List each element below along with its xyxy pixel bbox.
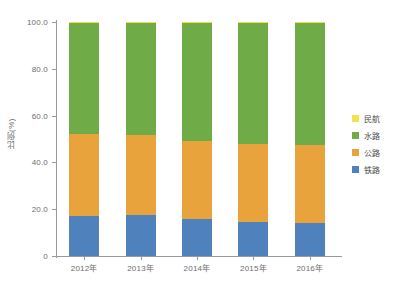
x-tick-label: 2012年: [56, 262, 112, 273]
legend-swatch-icon: [352, 166, 359, 173]
x-tick-label: 2014年: [169, 262, 225, 273]
legend-item-民航[interactable]: 民航: [352, 110, 398, 127]
x-tick-label: 2016年: [282, 262, 338, 273]
bar-segment-铁路: [69, 216, 99, 256]
legend-swatch-icon: [352, 149, 359, 156]
bar-segment-公路: [126, 135, 156, 215]
bar-segment-民航: [126, 22, 156, 23]
bar-segment-铁路: [295, 223, 325, 256]
x-tick-mark: [141, 256, 142, 260]
bar-segment-民航: [295, 22, 325, 23]
x-tick-label: 2013年: [113, 262, 169, 273]
bar-segment-铁路: [126, 215, 156, 256]
plot-area: [56, 22, 338, 256]
bar-segment-公路: [182, 141, 212, 219]
bar-2013年: [126, 22, 156, 256]
chart-legend: 民航水路公路铁路: [352, 110, 398, 178]
y-tick-label: 0: [8, 252, 48, 261]
legend-label: 民航: [364, 113, 381, 124]
x-tick-label: 2015年: [225, 262, 281, 273]
bar-segment-公路: [295, 145, 325, 224]
x-tick-mark: [253, 256, 254, 260]
y-tick-label: 80.0: [8, 64, 48, 73]
bar-segment-铁路: [182, 219, 212, 256]
bar-2015年: [238, 22, 268, 256]
bar-segment-水路: [126, 22, 156, 135]
bar-2012年: [69, 22, 99, 256]
bar-segment-民航: [182, 22, 212, 23]
y-axis-title: 比例(%): [6, 118, 17, 149]
bar-segment-公路: [69, 134, 99, 216]
y-tick-label: 60.0: [8, 111, 48, 120]
bar-2014年: [182, 22, 212, 256]
y-tick-mark: [52, 256, 56, 257]
bar-segment-水路: [238, 22, 268, 143]
x-tick-mark: [310, 256, 311, 260]
legend-swatch-icon: [352, 132, 359, 139]
y-tick-label: 20.0: [8, 205, 48, 214]
x-tick-mark: [84, 256, 85, 260]
bar-2016年: [295, 22, 325, 256]
legend-swatch-icon: [352, 115, 359, 122]
legend-label: 公路: [364, 147, 381, 158]
bar-segment-公路: [238, 144, 268, 222]
x-axis-line: [56, 256, 342, 257]
legend-item-铁路[interactable]: 铁路: [352, 161, 398, 178]
legend-label: 铁路: [364, 164, 381, 175]
legend-item-水路[interactable]: 水路: [352, 127, 398, 144]
legend-item-公路[interactable]: 公路: [352, 144, 398, 161]
bar-segment-民航: [238, 22, 268, 23]
bar-segment-水路: [295, 22, 325, 144]
x-tick-mark: [197, 256, 198, 260]
bar-segment-水路: [69, 22, 99, 133]
bar-segment-铁路: [238, 222, 268, 256]
bar-segment-民航: [69, 22, 99, 23]
bar-segment-水路: [182, 22, 212, 141]
legend-label: 水路: [364, 130, 381, 141]
y-tick-label: 100.0: [8, 18, 48, 27]
y-tick-label: 40.0: [8, 158, 48, 167]
stacked-bar-chart: 比例(%) 020.040.060.080.0100.0 2012年2013年2…: [0, 0, 398, 283]
